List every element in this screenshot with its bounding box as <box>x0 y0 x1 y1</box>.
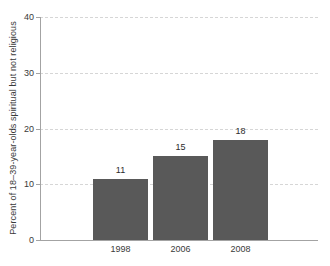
x-axis-line <box>40 240 318 241</box>
bar <box>213 140 268 240</box>
y-tick-label: 20 <box>12 124 34 133</box>
bar-value-label: 15 <box>175 143 185 152</box>
bar <box>93 179 148 240</box>
gridline <box>40 73 318 74</box>
bar-chart-figure: Percent of 18–39-year-olds spiritual but… <box>0 0 330 266</box>
y-tick-label: 30 <box>12 68 34 77</box>
y-tick-label: 0 <box>12 236 34 245</box>
plot-area: 010203040111998152006182008 <box>40 17 318 240</box>
y-tick-label: 40 <box>12 13 34 22</box>
gridline <box>40 17 318 18</box>
x-tick-label: 2008 <box>230 245 250 254</box>
bar <box>153 156 208 240</box>
bar-value-label: 11 <box>116 166 125 175</box>
gridline <box>40 129 318 130</box>
x-tick-label: 2006 <box>170 245 190 254</box>
y-axis-line <box>40 17 41 240</box>
x-tick-label: 1998 <box>110 245 130 254</box>
y-tick-label: 10 <box>12 180 34 189</box>
bar-value-label: 18 <box>235 127 245 136</box>
